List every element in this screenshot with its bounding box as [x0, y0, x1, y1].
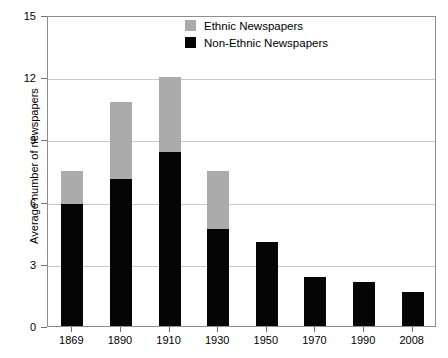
y-axis-tick-label: 6 — [8, 197, 36, 209]
bar-group[interactable] — [110, 15, 132, 326]
legend-item-non-ethnic: Non-Ethnic Newspapers — [185, 35, 328, 50]
bar-segment[interactable] — [61, 171, 83, 204]
x-axis-tick-mark — [412, 327, 413, 332]
y-axis-tick-label: 0 — [8, 321, 36, 333]
bar-segment[interactable] — [110, 102, 132, 179]
y-axis-tick-label: 9 — [8, 134, 36, 146]
x-axis-tick-label: 1970 — [302, 334, 326, 346]
y-axis-tick-label: 3 — [8, 259, 36, 271]
y-axis-tick-mark — [41, 327, 47, 328]
bar-segment[interactable] — [304, 277, 326, 326]
x-axis-tick-mark — [314, 327, 315, 332]
x-axis-tick-mark — [169, 327, 170, 332]
legend-swatch-non-ethnic — [185, 37, 196, 48]
x-axis-tick-label: 1990 — [351, 334, 375, 346]
bar-segment[interactable] — [159, 152, 181, 326]
bar-segment[interactable] — [402, 292, 424, 326]
bar-segment[interactable] — [159, 77, 181, 152]
x-axis-tick-mark — [363, 327, 364, 332]
x-axis-tick-mark — [266, 327, 267, 332]
legend-item-ethnic: Ethnic Newspapers — [185, 18, 328, 33]
bar-group[interactable] — [402, 15, 424, 326]
x-axis-tick-label: 1930 — [205, 334, 229, 346]
bar-group[interactable] — [304, 15, 326, 326]
legend-label-ethnic: Ethnic Newspapers — [204, 20, 303, 32]
x-axis-tick-label: 1890 — [108, 334, 132, 346]
x-axis-tick-label: 1950 — [254, 334, 278, 346]
bars-layer — [48, 17, 435, 326]
x-axis-tick-mark — [217, 327, 218, 332]
bar-segment[interactable] — [207, 229, 229, 326]
bar-segment[interactable] — [207, 171, 229, 229]
x-axis-tick-label: 2008 — [399, 334, 423, 346]
x-axis-tick-label: 1869 — [59, 334, 83, 346]
bar-segment[interactable] — [61, 204, 83, 326]
x-axis-tick-mark — [71, 327, 72, 332]
bar-group[interactable] — [61, 15, 83, 326]
bar-chart-figure: Average number of newspapers 03691215 18… — [0, 0, 448, 358]
bar-group[interactable] — [353, 15, 375, 326]
y-axis-tick-label: 15 — [8, 10, 36, 22]
bar-group[interactable] — [207, 15, 229, 326]
plot-area — [47, 16, 436, 327]
bar-group[interactable] — [159, 15, 181, 326]
legend-swatch-ethnic — [185, 20, 196, 31]
bar-segment[interactable] — [353, 282, 375, 326]
x-axis-tick-mark — [120, 327, 121, 332]
x-axis-tick-label: 1910 — [156, 334, 180, 346]
bar-segment[interactable] — [110, 179, 132, 326]
chart-legend: Ethnic Newspapers Non-Ethnic Newspapers — [185, 18, 328, 52]
bar-group[interactable] — [256, 15, 278, 326]
y-axis-tick-label: 12 — [8, 72, 36, 84]
bar-segment[interactable] — [256, 242, 278, 326]
legend-label-non-ethnic: Non-Ethnic Newspapers — [204, 37, 328, 49]
